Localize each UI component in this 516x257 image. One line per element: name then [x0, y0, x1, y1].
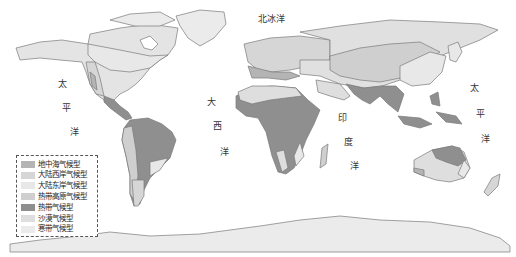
swatch-mediterranean	[21, 161, 35, 168]
asia	[300, 20, 498, 112]
pacific-ocean-west-char-1: 太	[58, 80, 67, 89]
legend-item-east-coast: 大陆东岸气候型	[21, 181, 93, 192]
swatch-desert	[21, 215, 35, 222]
swatch-tropical-highland	[21, 193, 35, 200]
legend-label: 热带气候型	[38, 204, 73, 212]
swatch-west-coast	[21, 172, 35, 179]
climate-legend: 地中海气候型 大陆西岸气候型 大陆东岸气候型 热带高原气候型 热带气候型 沙漠气…	[16, 155, 98, 237]
swatch-tropical	[21, 204, 35, 211]
swatch-east-coast	[21, 182, 35, 189]
legend-item-west-coast: 大陆西岸气候型	[21, 170, 93, 181]
legend-label: 沙漠气候型	[38, 215, 73, 223]
legend-item-mediterranean: 地中海气候型	[21, 159, 93, 170]
legend-label: 大陆西岸气候型	[38, 171, 87, 179]
africa	[236, 86, 328, 174]
legend-label: 寒带气候型	[38, 225, 73, 233]
arctic-ocean-label: 北冰洋	[258, 15, 285, 24]
atlantic-ocean-char-2: 西	[213, 122, 222, 131]
pacific-ocean-west-char-2: 平	[62, 104, 71, 113]
legend-label: 地中海气候型	[38, 161, 80, 169]
legend-item-desert: 沙漠气候型	[21, 213, 93, 224]
swatch-polar	[21, 226, 35, 233]
north-america	[16, 12, 178, 120]
indian-ocean-char-1: 印	[338, 114, 347, 123]
pacific-ocean-west-char-3: 洋	[70, 128, 79, 137]
indian-ocean-char-2: 度	[344, 138, 353, 147]
legend-label: 热带高原气候型	[38, 193, 87, 201]
australia	[414, 146, 470, 182]
southeast-asia	[398, 92, 462, 128]
pacific-ocean-east-char-3: 洋	[481, 135, 490, 144]
greenland	[176, 10, 226, 46]
pacific-ocean-east-char-1: 太	[470, 84, 479, 93]
new-zealand	[484, 174, 500, 196]
atlantic-ocean-char-3: 洋	[220, 148, 229, 157]
atlantic-ocean-char-1: 大	[207, 98, 216, 107]
south-america	[122, 118, 176, 206]
indian-ocean-char-3: 洋	[350, 162, 359, 171]
legend-item-tropical-highland: 热带高原气候型	[21, 191, 93, 202]
legend-label: 大陆东岸气候型	[38, 182, 87, 190]
legend-item-polar: 寒带气候型	[21, 224, 93, 235]
legend-item-tropical: 热带气候型	[21, 202, 93, 213]
pacific-ocean-east-char-2: 平	[476, 110, 485, 119]
